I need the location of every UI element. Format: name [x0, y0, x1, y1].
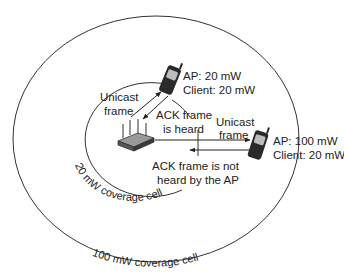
mobile-phone-icon-far — [247, 124, 271, 161]
far-unicast-label-2: frame — [219, 129, 248, 141]
coverage-cell-diagram: AP: 20 mW Client: 20 mW AP: 100 mW Clien… — [0, 0, 344, 279]
far-client-ap-power: AP: 100 mW — [273, 135, 338, 147]
mobile-phone-icon-near — [158, 59, 184, 96]
near-unicast-label-2: frame — [104, 105, 133, 117]
large-cell-label: 100 mW coverage cell — [91, 246, 199, 269]
near-client-ap-power: AP: 20 mW — [183, 70, 241, 82]
far-unicast-label-1: Unicast — [216, 116, 255, 128]
far-ack-label-1: ACK frame is not — [152, 160, 240, 172]
near-ack-label-2: is heard — [163, 123, 204, 135]
far-client-client-power: Client: 20 mW — [273, 149, 344, 161]
far-ack-label-2: heard by the AP — [157, 174, 239, 186]
near-unicast-label-1: Unicast — [100, 91, 139, 103]
near-ack-label-1: ACK frame — [156, 109, 212, 121]
small-cell-label: 20 mW coverage cell — [73, 161, 164, 203]
access-point-icon — [118, 119, 154, 151]
near-client-client-power: Client: 20 mW — [183, 84, 255, 96]
